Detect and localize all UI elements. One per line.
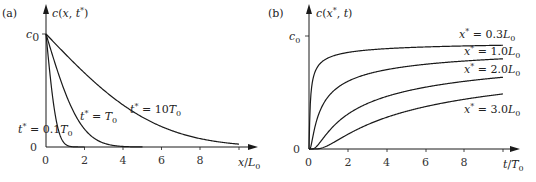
y-axis-label: c(x*, t)	[316, 6, 352, 20]
y-axis-arrow-icon	[306, 4, 312, 14]
zero-label: 0	[30, 141, 37, 154]
y-axis-arrow-icon	[43, 4, 49, 14]
label-t-0.1: t* = 0.1T0	[18, 122, 73, 138]
tick-8: 8	[461, 156, 468, 169]
x-axis-label: x/L0	[238, 156, 260, 171]
label-x-2.0: x* = 2.0L0	[464, 62, 520, 78]
x-ticks: 0 2 4 6 8	[305, 149, 503, 169]
panel-a: (a) c0 0 0 2 4 6 8 c(x, t*) x/L0	[2, 4, 260, 171]
x-ticks: 0 2 4 6 8	[42, 147, 239, 167]
tick-0: 0	[42, 154, 49, 167]
figure: (a) c0 0 0 2 4 6 8 c(x, t*) x/L0	[0, 0, 536, 182]
label-x-1.0: x* = 1.0L0	[464, 44, 520, 60]
tick-6: 6	[158, 154, 165, 167]
panel-b: (b) c0 0 0 2 4 6 8 c(x*, t) t/T0 x* = 0.…	[268, 4, 524, 173]
tick-2: 2	[345, 156, 352, 169]
label-x-3.0: x* = 3.0L0	[464, 102, 520, 118]
c0-label: c0	[289, 30, 300, 45]
x-axis-arrow-icon	[510, 146, 520, 152]
x-axis-arrow-icon	[248, 144, 258, 150]
y-axis-label: c(x, t*)	[52, 6, 88, 20]
tick-4: 4	[383, 156, 390, 169]
curve-t-10	[46, 34, 239, 144]
x-axis-label: t/T0	[503, 158, 524, 173]
zero-label: 0	[293, 143, 300, 156]
tick-4: 4	[120, 154, 127, 167]
label-t-10: t* = 10T0	[130, 102, 181, 118]
tick-0: 0	[305, 156, 312, 169]
tick-6: 6	[422, 156, 429, 169]
label-t-1: t* = T0	[80, 109, 117, 125]
tick-2: 2	[81, 154, 88, 167]
panel-a-label: (a)	[2, 7, 17, 20]
label-x-0.3: x* = 0.3L0	[459, 27, 515, 43]
tick-8: 8	[197, 154, 204, 167]
panel-b-label: (b)	[268, 7, 284, 20]
c0-label: c0	[26, 28, 39, 44]
